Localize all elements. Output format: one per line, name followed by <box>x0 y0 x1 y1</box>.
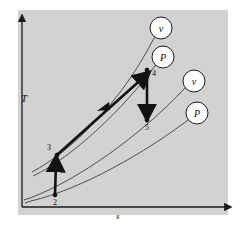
callout-v-right-label: v <box>192 76 197 87</box>
constant-volume-line-upper <box>32 40 153 172</box>
process-2-to-3 <box>55 162 56 195</box>
state-point-label-5: 5 <box>145 123 149 132</box>
state-point-label-2: 2 <box>53 198 57 207</box>
midpoint-arrowhead-3-to-4 <box>97 102 110 111</box>
figure-canvas: v P v P 2 3 4 5 T s <box>0 0 239 227</box>
state-point-labels: 2 3 4 5 <box>47 69 156 207</box>
callout-circles: v P v P <box>150 17 208 124</box>
temperature-axis-label: T <box>21 92 27 104</box>
curve-tail-lower-a <box>24 198 30 200</box>
callout-v-top-label: v <box>159 23 164 34</box>
curve-tail-lower-b <box>25 201 31 203</box>
cycle-path <box>53 68 149 197</box>
state-point-label-3: 3 <box>47 143 51 152</box>
process-3-to-4 <box>57 76 145 155</box>
state-point-5-dot <box>145 118 149 122</box>
state-point-2-dot <box>53 193 57 197</box>
state-point-label-4: 4 <box>152 69 156 78</box>
callout-P-right-label: P <box>193 108 200 119</box>
state-point-3-dot <box>55 153 59 157</box>
diagram-svg: v P v P 2 3 4 5 <box>0 0 239 227</box>
callout-P-top-label: P <box>159 52 166 63</box>
state-point-4-dot <box>145 68 149 72</box>
entropy-axis-label: s <box>116 211 120 221</box>
